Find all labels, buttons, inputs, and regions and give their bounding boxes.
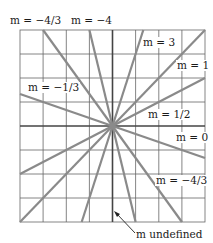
undefined-arrow bbox=[0, 0, 213, 243]
